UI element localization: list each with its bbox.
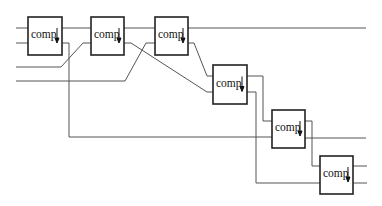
comparator-label: comp [275,121,301,134]
wire-w-c4-top [247,76,272,121]
wire-w-c3-low [188,43,213,76]
comparator-node-comp3: comp [155,17,188,55]
nodes: compcompcompcompcompcomp [28,17,353,194]
comparator-node-comp1: comp [28,17,62,55]
comparator-label: comp [158,28,184,41]
comparator-network-diagram: compcompcompcompcompcomp [0,0,382,206]
comparator-node-comp4: comp [213,65,247,104]
wire-w-c5-top [305,121,320,166]
comparator-node-comp5: comp [272,110,305,148]
comparator-node-comp2: comp [91,17,124,55]
wires [16,28,367,183]
comparator-label: comp [216,77,242,90]
comparator-label: comp [94,28,120,41]
comparator-node-comp6: comp [320,156,353,194]
comparator-label: comp [323,167,349,180]
comparator-label: comp [31,28,57,41]
